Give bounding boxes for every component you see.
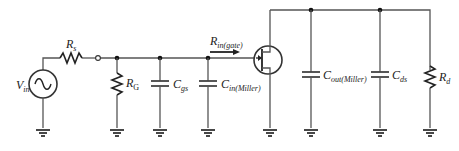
- cds-capacitor-icon: [371, 10, 389, 128]
- rs-resistor-icon: [60, 53, 82, 63]
- ground-icon: [304, 130, 318, 136]
- rg-label: RG: [125, 76, 139, 92]
- vin-label: Vin: [16, 78, 30, 94]
- n-channel-jfet-icon: [254, 10, 282, 128]
- input-terminal: [96, 56, 101, 61]
- cout-miller-label: Cout(Miller): [323, 68, 367, 84]
- ac-voltage-source-icon: [29, 70, 57, 128]
- cgs-capacitor-icon: [151, 58, 169, 128]
- rs-label: Rs: [65, 37, 76, 53]
- cgs-label: Cgs: [173, 77, 188, 93]
- ground-icon: [423, 130, 437, 136]
- ground-icon: [110, 130, 124, 136]
- rd-resistor-icon: [425, 66, 435, 128]
- ground-icon: [201, 130, 215, 136]
- cin-miller-capacitor-icon: [199, 58, 217, 128]
- ground-icon: [373, 130, 387, 136]
- ground-icon: [153, 130, 167, 136]
- rg-resistor-icon: [112, 58, 122, 128]
- drain-wire: [270, 10, 430, 70]
- cout-miller-capacitor-icon: [302, 10, 320, 128]
- cds-label: Cds: [392, 68, 407, 84]
- circuit-diagram: Vin Rs RG Cgs Cin(Miller) Rin(gate): [0, 0, 459, 151]
- ground-icon: [36, 130, 50, 136]
- ground-icon: [263, 130, 277, 136]
- cin-miller-label: Cin(Miller): [221, 77, 261, 93]
- rd-label: Rd: [438, 70, 451, 86]
- rin-gate-label: Rin(gate): [209, 34, 243, 50]
